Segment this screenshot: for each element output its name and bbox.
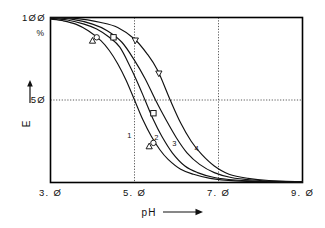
x-tick-label-3: 3. Ø [39, 187, 62, 198]
chart-canvas: 1234 1ØØ % 5Ø E 3. Ø5. Ø7. Ø9. Ø pH [0, 0, 325, 228]
titration-curve-figure: 1234 1ØØ % 5Ø E 3. Ø5. Ø7. Ø9. Ø pH [0, 0, 325, 228]
x-axis-title: pH [142, 207, 157, 218]
x-tick-label-7: 7. Ø [207, 187, 230, 198]
marker-circle [94, 35, 99, 40]
y-tick-label-100: 1ØØ [22, 12, 46, 23]
marker-square [151, 111, 156, 116]
x-tick-label-5: 5. Ø [123, 187, 146, 198]
curve-label-1: 1 [127, 131, 131, 140]
y-axis-title: E [21, 120, 32, 127]
marker-square [111, 35, 116, 40]
curve-label-4: 4 [195, 144, 199, 153]
y-axis-unit-percent: % [36, 28, 44, 38]
x-tick-label-9: 9. Ø [291, 187, 314, 198]
y-tick-label-50: 5Ø [31, 94, 46, 105]
curve-label-2: 2 [154, 133, 158, 142]
curve-label-3: 3 [172, 139, 176, 148]
